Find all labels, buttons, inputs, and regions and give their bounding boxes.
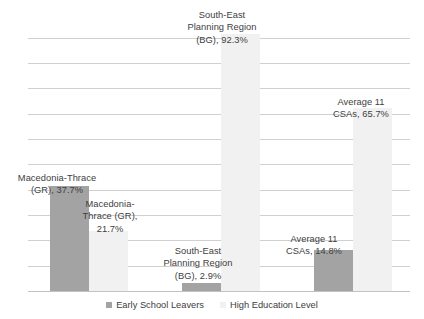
bar-high-education-level-average-11-csas[interactable] (353, 108, 392, 291)
data-label-high-education-level-average-11-csas: Average 11 CSAs, 65.7% (319, 96, 403, 121)
gridline (28, 63, 410, 64)
bar-high-education-level-macedonia-thrace[interactable] (89, 231, 128, 291)
legend-label-early-school-leavers: Early School Leavers (116, 300, 204, 310)
legend-label-high-education-level: High Education Level (230, 300, 318, 310)
legend-swatch-icon (220, 302, 226, 308)
chart-legend: Early School Leavers High Education Leve… (0, 300, 424, 310)
data-label-high-education-level-south-east-planning-region: South-East Planning Region (BG), 92.3% (170, 9, 274, 46)
legend-entry-early-school-leavers[interactable]: Early School Leavers (106, 300, 204, 310)
legend-entry-high-education-level[interactable]: High Education Level (220, 300, 318, 310)
bar-early-school-leavers-south-east-planning-region[interactable] (182, 283, 221, 291)
gridline (28, 88, 410, 89)
data-label-high-education-level-macedonia-thrace: Macedonia- Thrace (GR), 21.7% (70, 198, 150, 235)
bar-chart: Macedonia-Thrace (GR), 37.7% Macedonia- … (0, 0, 424, 319)
legend-swatch-icon (106, 302, 112, 308)
axis-baseline (28, 291, 410, 292)
data-label-early-school-leavers-south-east-planning-region: South-East Planning Region (BG), 2.9% (146, 245, 250, 282)
data-label-early-school-leavers-average-11-csas: Average 11 CSAs, 14.8% (274, 233, 354, 258)
data-label-early-school-leavers-macedonia-thrace: Macedonia-Thrace (GR), 37.7% (4, 172, 110, 197)
